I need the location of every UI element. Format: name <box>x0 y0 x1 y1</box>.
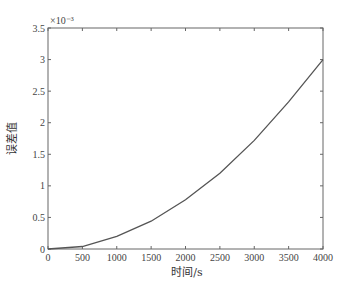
x-tick-label: 500 <box>75 252 90 263</box>
y-tick-label: 0.5 <box>33 212 46 223</box>
x-tick-label: 0 <box>46 252 51 263</box>
y-tick-label: 3.5 <box>33 23 46 34</box>
y-tick-label: 0 <box>40 244 45 255</box>
x-tick-label: 1000 <box>107 252 127 263</box>
y-tick-label: 2 <box>40 117 45 128</box>
plot-area: 0500100015002000250030003500400000.511.5… <box>33 23 334 264</box>
y-multiplier: ×10⁻³ <box>50 15 74 26</box>
x-tick-label: 1500 <box>141 252 161 263</box>
x-axis-label: 时间/s <box>171 266 203 279</box>
x-tick-label: 2500 <box>210 252 230 263</box>
x-tick-label: 4000 <box>313 252 333 263</box>
y-axis-label: 误差值 <box>5 122 19 155</box>
axes-box <box>48 28 323 249</box>
y-tick-label: 2.5 <box>33 86 46 97</box>
series-line <box>48 60 323 249</box>
y-tick-label: 1.5 <box>33 149 46 160</box>
line-chart: 0500100015002000250030003500400000.511.5… <box>0 0 350 292</box>
x-tick-label: 3000 <box>244 252 264 263</box>
x-tick-label: 2000 <box>176 252 196 263</box>
x-tick-label: 3500 <box>279 252 299 263</box>
y-tick-label: 1 <box>40 180 45 191</box>
y-tick-label: 3 <box>40 54 45 65</box>
